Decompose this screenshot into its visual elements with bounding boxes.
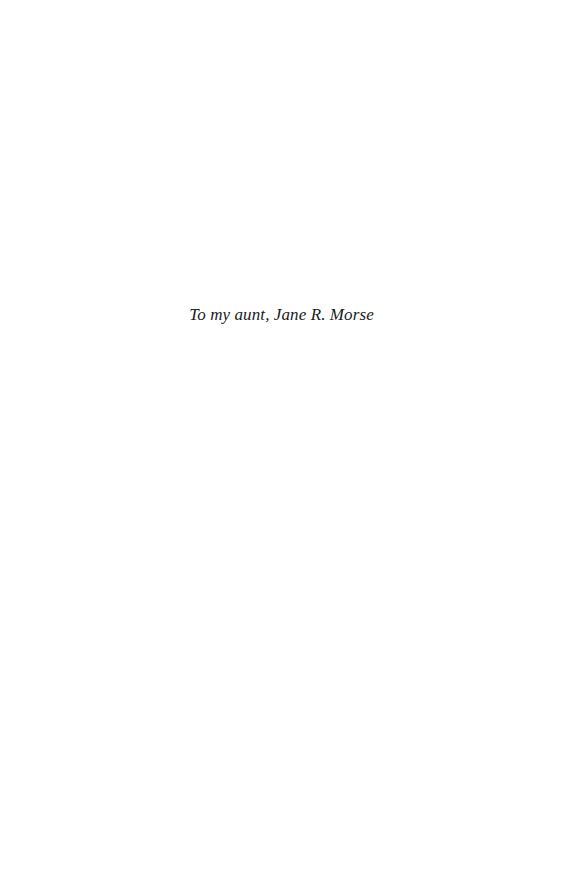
- dedication-text: To my aunt, Jane R. Morse: [0, 305, 563, 325]
- book-page: To my aunt, Jane R. Morse: [0, 0, 563, 881]
